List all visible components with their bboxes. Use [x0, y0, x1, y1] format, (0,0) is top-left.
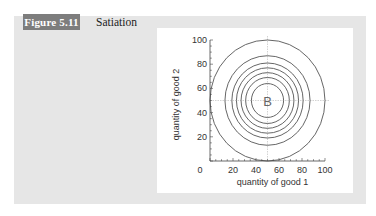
y-tick-label: 100	[192, 35, 207, 45]
figure-title: Satiation	[96, 14, 137, 30]
y-tick-label: 60	[197, 83, 207, 93]
y-tick-label: 80	[197, 59, 207, 69]
x-tick-label: 80	[297, 165, 307, 175]
figure-number-badge: Figure 5.11	[23, 14, 80, 30]
x-tick-label: 0	[197, 165, 202, 175]
y-tick-label: 20	[197, 132, 207, 142]
x-axis-label: quantity of good 1	[237, 177, 309, 187]
satiation-chart: 02040608010020406080100 B quantity of go…	[157, 28, 353, 193]
y-tick-label: 40	[197, 108, 207, 118]
x-tick-label: 100	[317, 165, 332, 175]
x-tick-label: 40	[251, 165, 261, 175]
chart-area: 02040608010020406080100 B quantity of go…	[157, 28, 353, 193]
x-tick-label: 60	[274, 165, 284, 175]
bliss-point-label: B	[263, 94, 272, 109]
y-axis-label: quantity of good 2	[171, 69, 181, 141]
x-tick-label: 20	[228, 165, 238, 175]
